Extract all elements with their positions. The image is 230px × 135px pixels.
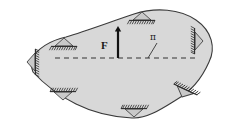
free-body-diagram: F π <box>0 0 230 135</box>
section-plane-label: π <box>150 33 156 42</box>
rigid-body <box>30 10 212 118</box>
force-label: F <box>101 40 108 51</box>
diagram-canvas <box>0 0 230 135</box>
